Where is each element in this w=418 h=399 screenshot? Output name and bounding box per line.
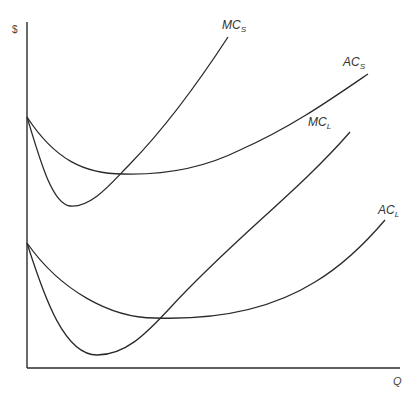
ac-l-curve (27, 220, 385, 318)
ac-s-label: ACS (342, 55, 366, 71)
x-axis-label: Q (393, 375, 402, 387)
mc-l-curve (27, 132, 350, 355)
y-axis-label: $ (12, 24, 18, 35)
cost-curves-diagram: $ Q MCS ACS MCL ACL (0, 0, 418, 399)
mc-s-label: MCS (222, 18, 247, 34)
ac-l-label: ACL (377, 203, 399, 219)
mc-s-curve (27, 37, 228, 206)
mc-l-label: MCL (308, 115, 331, 131)
